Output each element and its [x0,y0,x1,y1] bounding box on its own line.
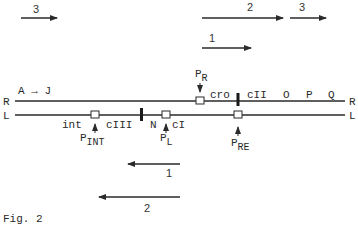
transcript-top-2: 2 [202,1,283,18]
transcript-label: 2 [144,202,150,214]
figure-caption: Fig. 2 [3,213,43,225]
transcript-label: 1 [166,167,172,179]
promoter-pre: PRE [231,111,250,153]
gene-o: O [283,89,290,101]
transcript-label: 3 [299,1,305,13]
transcript-label: 2 [247,1,253,13]
promoter-box [196,97,204,104]
promoter-box [234,111,242,118]
promoter-label: PRE [231,137,250,153]
transcript-bottom-1: 1 [128,164,180,179]
gene-n: N [150,119,157,131]
gene-cro: cro [210,89,230,101]
promoter-label: PINT [80,132,105,148]
strand-label-left: L [3,110,10,122]
terminator-bar [237,93,240,106]
transcript-label: 1 [209,32,215,44]
promoter-label: PL [160,132,173,148]
promoter-box [91,111,99,118]
gene-p: P [306,89,313,101]
gene-span-label: A → J [18,85,51,97]
strand-label-left: R [3,96,10,108]
gene-q: Q [328,89,335,101]
strand-label-right: L [349,110,356,122]
strand-r: R R A → J [3,85,356,108]
transcript-label: 3 [33,3,39,15]
promoter-pr: PR [195,68,208,104]
promoter-label: PR [195,68,208,84]
promoter-pint: PINT [80,111,105,148]
strand-label-right: R [349,96,356,108]
gene-ciii: cIII [106,119,132,131]
transcript-bottom-2: 2 [99,197,180,214]
lambda-genetic-map-diagram: 3 2 3 1 R R A → J L L PR cro cII O P Q i… [0,0,358,226]
terminator-bar [140,108,143,121]
transcript-top-right-3: 3 [290,1,326,18]
gene-ci: cI [172,119,185,131]
promoter-pl: PL [160,111,173,148]
gene-cii: cII [247,89,267,101]
gene-int: int [62,119,82,131]
transcript-top-1: 1 [202,32,251,48]
promoter-box [162,111,170,118]
transcript-top-left-3: 3 [21,3,57,18]
